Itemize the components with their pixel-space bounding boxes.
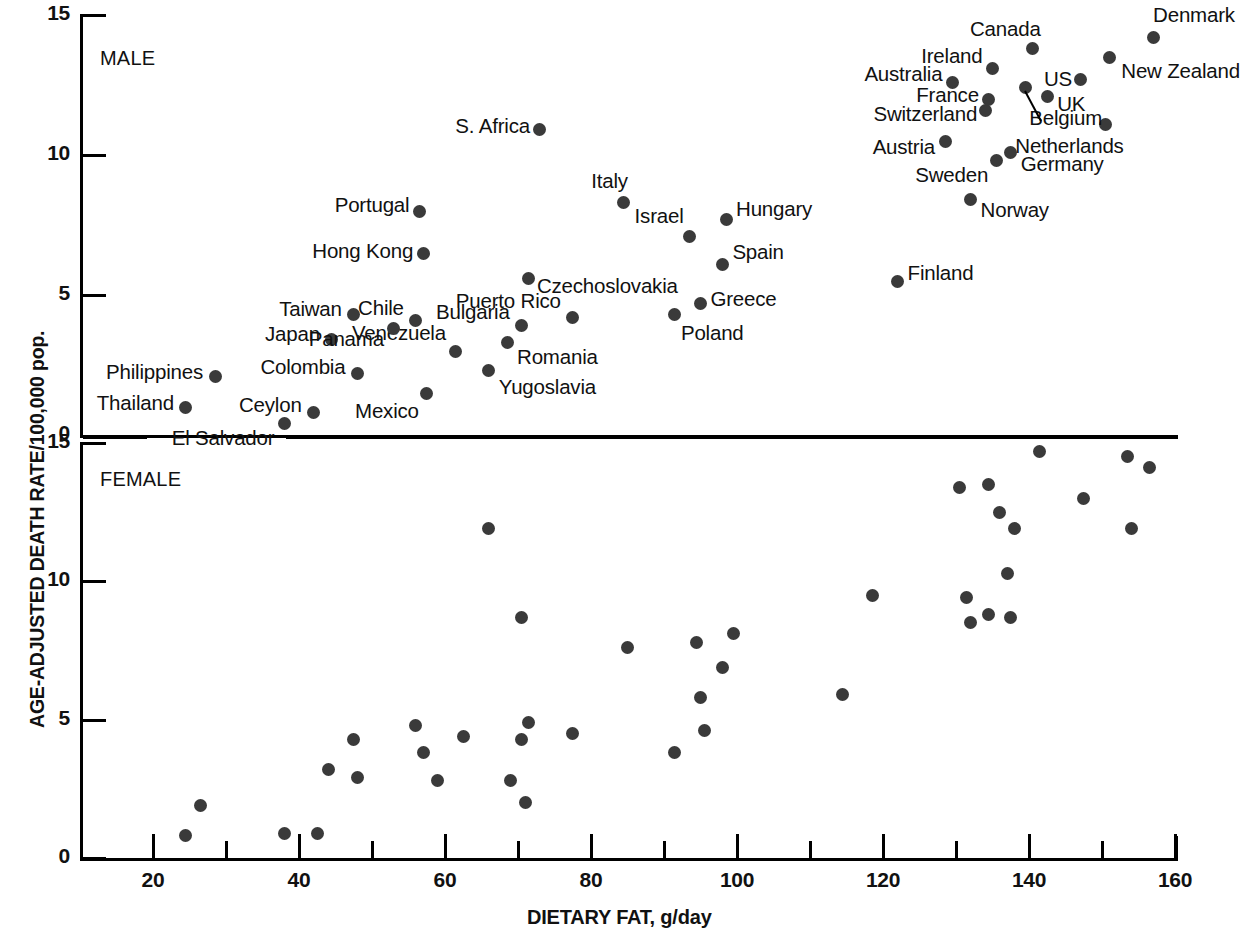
data-point-female bbox=[457, 730, 470, 743]
point-label-panama: Panama bbox=[309, 328, 384, 349]
data-point-female bbox=[727, 627, 740, 640]
x-axis-line bbox=[80, 858, 1178, 861]
point-label-el-salvador: El Salvador bbox=[172, 428, 275, 449]
data-point-female bbox=[866, 589, 879, 602]
data-point-female bbox=[482, 522, 495, 535]
data-point-female bbox=[311, 827, 324, 840]
data-point-female bbox=[694, 691, 707, 704]
point-label-philippines: Philippines bbox=[106, 362, 203, 383]
x-tick-minor-150 bbox=[1101, 841, 1104, 858]
point-label-switzerland: Switzerland bbox=[873, 104, 977, 125]
point-label-finland: Finland bbox=[908, 263, 974, 284]
female-y-tick-label-10: 10 bbox=[14, 567, 70, 591]
point-label-s-africa: S. Africa bbox=[455, 116, 530, 137]
data-point-female bbox=[322, 763, 335, 776]
x-tick-major-140 bbox=[1028, 834, 1031, 858]
point-label-chile: Chile bbox=[358, 298, 404, 319]
x-tick-label-20: 20 bbox=[113, 868, 193, 892]
data-point-female bbox=[668, 746, 681, 759]
data-point-male bbox=[694, 297, 707, 310]
data-point-female bbox=[278, 827, 291, 840]
male-y-axis-line bbox=[80, 15, 83, 437]
data-point-female bbox=[179, 829, 192, 842]
y-axis-title: AGE-ADJUSTED DEATH RATE/100,000 pop. bbox=[26, 331, 49, 728]
data-point-male bbox=[716, 258, 729, 271]
data-point-male bbox=[982, 93, 995, 106]
point-label-taiwan: Taiwan bbox=[279, 298, 342, 319]
point-label-thailand: Thailand bbox=[97, 393, 174, 414]
x-tick-major-100 bbox=[736, 834, 739, 858]
point-label-netherlands: Netherlands bbox=[1015, 136, 1123, 157]
data-point-male bbox=[668, 308, 681, 321]
data-point-male bbox=[522, 272, 535, 285]
point-label-australia: Australia bbox=[864, 64, 942, 85]
data-point-male bbox=[533, 123, 546, 136]
x-tick-minor-130 bbox=[955, 841, 958, 858]
point-label-ceylon: Ceylon bbox=[239, 394, 302, 415]
data-point-female bbox=[982, 478, 995, 491]
data-point-male bbox=[482, 364, 495, 377]
panel-label-male: MALE bbox=[100, 47, 155, 70]
data-point-female bbox=[953, 481, 966, 494]
data-point-female bbox=[982, 608, 995, 621]
x-tick-major-160 bbox=[1174, 834, 1177, 858]
point-label-new-zealand: New Zealand bbox=[1121, 61, 1240, 82]
male-y-tick-10 bbox=[80, 154, 106, 157]
data-point-female bbox=[1143, 461, 1156, 474]
data-point-female bbox=[417, 746, 430, 759]
data-point-female bbox=[1008, 522, 1021, 535]
data-point-female bbox=[515, 733, 528, 746]
x-tick-minor-110 bbox=[809, 841, 812, 858]
female-y-tick-label-5: 5 bbox=[14, 706, 70, 730]
data-point-male bbox=[420, 387, 433, 400]
data-point-female bbox=[698, 724, 711, 737]
data-point-female bbox=[960, 591, 973, 604]
data-point-male bbox=[990, 154, 1003, 167]
point-label-sweden: Sweden bbox=[915, 164, 988, 185]
leader-line-el-salvador bbox=[83, 437, 147, 439]
point-label-portugal: Portugal bbox=[335, 195, 410, 216]
point-label-hungary: Hungary bbox=[736, 199, 812, 220]
point-label-romania: Romania bbox=[517, 346, 598, 367]
female-y-tick-10 bbox=[80, 580, 106, 583]
female-y-tick-label-0: 0 bbox=[14, 844, 70, 868]
data-point-male bbox=[1103, 51, 1116, 64]
x-tick-minor-70 bbox=[517, 841, 520, 858]
male-y-tick-15 bbox=[80, 14, 106, 17]
female-y-tick-5 bbox=[80, 719, 106, 722]
data-point-male bbox=[209, 370, 222, 383]
data-point-male bbox=[307, 406, 320, 419]
x-tick-label-60: 60 bbox=[405, 868, 485, 892]
point-label-uk: UK bbox=[1057, 94, 1085, 115]
x-tick-label-40: 40 bbox=[259, 868, 339, 892]
point-label-denmark: Denmark bbox=[1153, 5, 1235, 26]
x-tick-label-120: 120 bbox=[843, 868, 923, 892]
data-point-female bbox=[1077, 492, 1090, 505]
data-point-male bbox=[417, 247, 430, 260]
data-point-female bbox=[993, 506, 1006, 519]
x-tick-major-40 bbox=[298, 834, 301, 858]
data-point-female bbox=[716, 661, 729, 674]
male-y-tick-label-10: 10 bbox=[14, 141, 70, 165]
data-point-male bbox=[1041, 90, 1054, 103]
data-point-male bbox=[946, 76, 959, 89]
data-point-male bbox=[278, 417, 291, 430]
leader-line-baseline-right bbox=[286, 437, 1178, 439]
data-point-male bbox=[986, 62, 999, 75]
data-point-male bbox=[351, 367, 364, 380]
point-label-germany: Germany bbox=[1021, 154, 1104, 175]
data-point-female bbox=[1121, 450, 1134, 463]
data-point-female bbox=[431, 774, 444, 787]
data-point-male bbox=[501, 336, 514, 349]
data-point-female bbox=[621, 641, 634, 654]
female-y-tick-label-15: 15 bbox=[14, 429, 70, 453]
data-point-male bbox=[413, 205, 426, 218]
x-tick-major-20 bbox=[152, 834, 155, 858]
data-point-female bbox=[351, 771, 364, 784]
female-y-tick-15 bbox=[80, 442, 106, 445]
data-point-female bbox=[1125, 522, 1138, 535]
point-label-czechoslovakia: Czechoslovakia bbox=[537, 276, 678, 297]
point-label-poland: Poland bbox=[681, 322, 744, 343]
data-point-male bbox=[566, 311, 579, 324]
